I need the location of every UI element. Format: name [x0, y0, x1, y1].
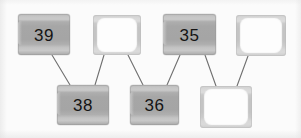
- node-label: 35: [163, 26, 216, 43]
- node-hollow-interior: [98, 19, 136, 51]
- tree-node-empty-n7[interactable]: [200, 86, 252, 128]
- tree-node-empty-n2[interactable]: [93, 15, 141, 55]
- edge-n4-n7: [237, 56, 248, 86]
- node-label: 38: [57, 97, 109, 114]
- edge-group: [52, 55, 248, 86]
- tree-node-38[interactable]: 38: [57, 85, 109, 125]
- node-hollow-interior: [241, 19, 281, 52]
- tree-node-35[interactable]: 35: [163, 14, 216, 55]
- edge-n1-n5: [52, 55, 70, 85]
- node-hollow-interior: [205, 90, 247, 124]
- edge-n2-n5: [95, 55, 104, 85]
- diagram-canvas: 39353836: [0, 0, 301, 138]
- tree-node-39[interactable]: 39: [18, 14, 70, 55]
- edge-n3-n6: [167, 55, 180, 85]
- node-label: 36: [130, 97, 179, 114]
- edge-n2-n6: [128, 55, 143, 85]
- tree-node-36[interactable]: 36: [130, 85, 179, 125]
- edge-n3-n7: [205, 55, 216, 86]
- node-label: 39: [18, 26, 70, 43]
- tree-node-empty-n4[interactable]: [236, 15, 286, 56]
